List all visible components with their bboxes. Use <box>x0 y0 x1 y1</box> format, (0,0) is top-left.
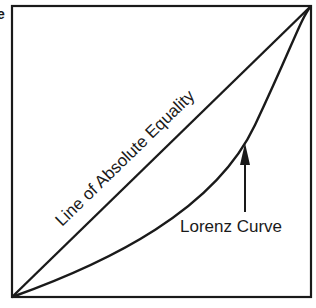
lorenz-curve-label: Lorenz Curve <box>180 217 282 236</box>
arrow-up-icon <box>240 143 250 165</box>
equality-line <box>12 6 311 297</box>
equality-line-label: Line of Absolute Equality <box>52 86 199 230</box>
lorenz-diagram: e Line of Absolute Equality Lorenz Curve <box>0 0 316 308</box>
title-fragment: e <box>0 6 5 22</box>
